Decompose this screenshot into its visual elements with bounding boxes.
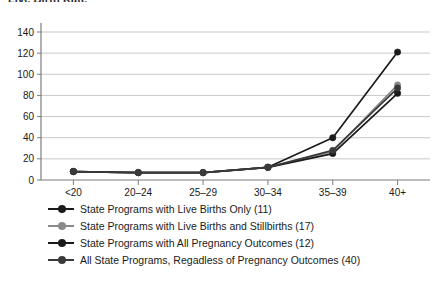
data-point xyxy=(330,147,336,153)
data-point xyxy=(200,169,206,175)
legend-item[interactable]: State Programs with All Pregnancy Outcom… xyxy=(48,234,428,251)
plot-area: 020406080100120140 <2020–2425–2930–3435–… xyxy=(0,0,438,196)
y-axis xyxy=(37,23,41,180)
chart-figure: Live Birth Rate 020406080100120140 <2020… xyxy=(0,0,438,284)
x-tick-label: 30–34 xyxy=(254,187,282,196)
y-tick-label: 60 xyxy=(23,111,35,122)
legend-item-label: State Programs with All Pregnancy Outcom… xyxy=(80,237,314,249)
y-tick-labels: 020406080100120140 xyxy=(17,27,34,186)
legend-marker-icon xyxy=(48,254,74,265)
y-tick-label: 40 xyxy=(23,132,35,143)
series-line xyxy=(73,93,397,172)
x-tick-label: <20 xyxy=(65,187,82,196)
y-tick-label: 20 xyxy=(23,153,35,164)
data-point xyxy=(394,85,400,91)
series-group xyxy=(70,49,401,176)
y-tick-label: 100 xyxy=(17,69,34,80)
legend-item-label: State Programs with Live Births Only (11… xyxy=(80,203,272,215)
series-line xyxy=(73,85,397,173)
legend-item-label: State Programs with Live Births and Stil… xyxy=(80,220,314,232)
legend-item[interactable]: State Programs with Live Births and Stil… xyxy=(48,217,428,234)
legend-dot-icon xyxy=(58,205,66,213)
gridlines-group xyxy=(41,32,430,159)
y-tick-label: 140 xyxy=(17,27,34,38)
x-axis xyxy=(41,180,430,185)
y-tick-label: 80 xyxy=(23,90,35,101)
series-line xyxy=(73,52,397,173)
legend-item[interactable]: State Programs with Live Births Only (11… xyxy=(48,200,428,217)
legend-marker-icon xyxy=(48,237,74,248)
legend-marker-icon xyxy=(48,220,74,231)
x-tick-labels: <2020–2425–2930–3435–3940+ xyxy=(65,187,406,196)
legend-dot-icon xyxy=(58,256,66,264)
y-tick-label: 120 xyxy=(17,48,34,59)
data-point xyxy=(394,49,400,55)
legend-dot-icon xyxy=(58,222,66,230)
data-point xyxy=(70,168,76,174)
x-tick-label: 40+ xyxy=(389,187,406,196)
legend-dot-icon xyxy=(58,239,66,247)
line-chart-svg: 020406080100120140 <2020–2425–2930–3435–… xyxy=(0,0,438,196)
x-tick-label: 25–29 xyxy=(189,187,217,196)
legend-item-label: All State Programs, Regadless of Pregnan… xyxy=(80,254,360,266)
series-line xyxy=(73,88,397,173)
x-tick-label: 35–39 xyxy=(319,187,347,196)
data-point xyxy=(330,135,336,141)
data-point xyxy=(265,164,271,170)
legend-item[interactable]: All State Programs, Regadless of Pregnan… xyxy=(48,251,428,268)
legend-marker-icon xyxy=(48,203,74,214)
data-point xyxy=(135,169,141,175)
chart-legend: State Programs with Live Births Only (11… xyxy=(48,200,428,268)
y-tick-label: 0 xyxy=(28,175,34,186)
x-tick-label: 20–24 xyxy=(124,187,152,196)
